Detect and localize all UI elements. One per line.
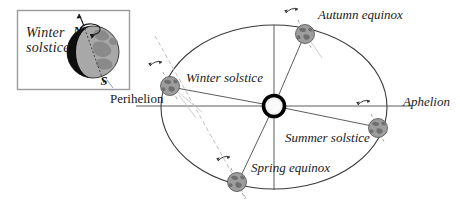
sun-core — [268, 100, 281, 113]
diagram-canvas: N S — [0, 0, 460, 210]
inset-title-line1: Winter — [26, 26, 70, 41]
label-spring-equinox: Spring equinox — [251, 161, 330, 175]
label-winter-solstice: Winter solstice — [186, 71, 263, 85]
radius-line-summer-solstice — [274, 106, 377, 127]
inset-title-line2: solstice — [26, 41, 70, 56]
radius-line-winter-solstice — [171, 87, 274, 106]
earth-autumn-equinox — [284, 7, 322, 58]
label-perihelion: Perihelion — [110, 92, 163, 106]
earth-spring-equinox — [216, 155, 246, 199]
label-aphelion: Aphelion — [403, 95, 450, 109]
sun — [264, 96, 285, 117]
inset-title: Winter solstice — [26, 26, 70, 55]
inset-south-pole-label: S — [101, 74, 108, 88]
label-summer-solstice: Summer solstice — [285, 131, 370, 145]
inset-north-pole-label: N — [72, 24, 83, 38]
label-autumn-equinox: Autumn equinox — [318, 8, 403, 22]
